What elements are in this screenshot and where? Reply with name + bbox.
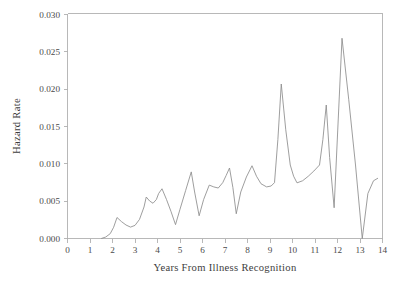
x-axis-title: Years From Illness Recognition	[154, 262, 297, 273]
x-tick-label: 12	[333, 245, 343, 255]
x-tick-label: 10	[288, 245, 298, 255]
hazard-rate-series-line	[101, 38, 378, 238]
y-tick-label: 0.030	[39, 10, 60, 20]
y-axis-tick-labels: 0.000 0.005 0.010 0.015 0.020 0.025 0.03…	[39, 10, 60, 244]
x-tick-label: 6	[200, 245, 205, 255]
y-tick-label: 0.020	[39, 84, 60, 94]
y-tick-label: 0.000	[39, 234, 60, 244]
x-tick-label: 8	[245, 245, 250, 255]
y-axis-title: Hazard Rate	[11, 98, 22, 154]
y-tick-label: 0.025	[39, 47, 60, 57]
plot-frame	[68, 14, 383, 239]
x-tick-label: 0	[65, 245, 70, 255]
x-tick-label: 13	[355, 245, 365, 255]
x-tick-label: 3	[133, 245, 138, 255]
x-tick-label: 14	[378, 245, 388, 255]
hazard-rate-line-chart: 0.000 0.005 0.010 0.015 0.020 0.025 0.03…	[0, 0, 398, 281]
x-tick-label: 7	[223, 245, 228, 255]
x-tick-label: 5	[178, 245, 183, 255]
y-tick-label: 0.010	[39, 159, 60, 169]
x-tick-label: 11	[311, 245, 320, 255]
x-axis-ticks	[68, 239, 383, 243]
x-tick-label: 2	[110, 245, 115, 255]
x-axis-tick-labels: 0 1 2 3 4 5 6 7 8 9 10 11 12 13 14	[65, 245, 387, 255]
x-tick-label: 4	[155, 245, 160, 255]
y-tick-label: 0.015	[39, 122, 60, 132]
y-axis-ticks	[64, 15, 68, 239]
y-tick-label: 0.005	[39, 196, 60, 206]
chart-figure: 0.000 0.005 0.010 0.015 0.020 0.025 0.03…	[0, 0, 398, 281]
x-tick-label: 1	[88, 245, 93, 255]
x-tick-label: 9	[268, 245, 273, 255]
